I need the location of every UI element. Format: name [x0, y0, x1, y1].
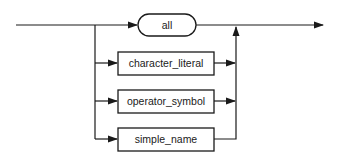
node-all: all [138, 14, 196, 36]
node-operator-symbol-label: operator_symbol [127, 95, 205, 107]
node-character-literal-label: character_literal [129, 57, 204, 69]
node-operator-symbol: operator_symbol [118, 90, 214, 113]
node-simple-name: simple_name [118, 128, 214, 151]
node-character-literal: character_literal [118, 52, 214, 75]
out-simple-name [214, 27, 236, 139]
railroad-diagram: all character_literal operator_symbol si… [0, 0, 342, 163]
node-simple-name-label: simple_name [135, 133, 198, 145]
node-all-label: all [162, 19, 173, 31]
